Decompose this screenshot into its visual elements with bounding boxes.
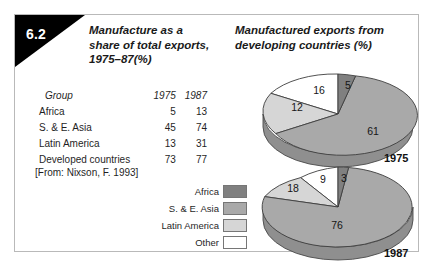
table-cell-1975: 5 <box>145 103 176 119</box>
figure-card: 6.2 Manufacture as a share of total expo… <box>14 14 419 252</box>
legend-swatch-s-e-asia <box>223 202 247 215</box>
legend-swatch-latin-america <box>223 219 247 232</box>
pie-1975-label-s-e-asia: 61 <box>367 125 379 137</box>
legend-label: S. & E. Asia <box>169 203 219 214</box>
pie-1975-label-africa: 5 <box>345 79 351 91</box>
source-citation: [From: Nixson, F. 1993] <box>35 167 138 178</box>
pie-1987-label-other: 9 <box>320 173 326 185</box>
pie-1987-label-s-e-asia: 76 <box>331 219 343 231</box>
table-cell-group: Latin America <box>35 135 145 151</box>
legend-label: Africa <box>195 186 219 197</box>
figure-title-line-2: share of total exports, <box>89 38 239 53</box>
chart-title-line-2: developing countries (%) <box>235 38 415 53</box>
pie-chart-1987: 76 18 9 3 1987 <box>253 155 423 267</box>
table-header-row: Group 1975 1987 <box>35 87 207 103</box>
data-table: Group 1975 1987 Africa 5 13 S. & E. Asia… <box>35 87 207 167</box>
pie-chart-1975: 61 12 16 5 1975 <box>253 59 423 169</box>
legend-item-s-e-asia: S. & E. Asia <box>143 200 247 217</box>
table-cell-group: S. & E. Asia <box>35 119 145 135</box>
table-cell-1987: 13 <box>176 103 207 119</box>
chart-legend: Africa S. & E. Asia Latin America Other <box>143 183 247 251</box>
figure-title-line-3: 1975–87(%) <box>89 52 239 67</box>
table-row: Developed countries 73 77 <box>35 151 207 167</box>
table-cell-1975: 45 <box>145 119 176 135</box>
pie-1975-label-other: 16 <box>313 84 325 96</box>
table-cell-1975: 73 <box>145 151 176 167</box>
table-row: S. & E. Asia 45 74 <box>35 119 207 135</box>
legend-item-other: Other <box>143 234 247 251</box>
figure-number-badge: 6.2 <box>15 15 85 67</box>
pie-1975-label-latin-america: 12 <box>291 101 303 113</box>
legend-label: Latin America <box>161 220 219 231</box>
legend-item-africa: Africa <box>143 183 247 200</box>
table-row: Latin America 13 31 <box>35 135 207 151</box>
table-header-group: Group <box>35 87 145 103</box>
table-cell-group: Developed countries <box>35 151 145 167</box>
table-row: Africa 5 13 <box>35 103 207 119</box>
legend-swatch-other <box>223 236 247 249</box>
table-header-1987: 1987 <box>176 87 207 103</box>
figure-title: Manufacture as a share of total exports,… <box>89 23 239 67</box>
legend-label: Other <box>195 237 219 248</box>
figure-title-line-1: Manufacture as a <box>89 23 239 38</box>
figure-number: 6.2 <box>26 26 46 42</box>
legend-swatch-africa <box>223 185 247 198</box>
pie-1987-label-latin-america: 18 <box>287 182 299 194</box>
table-header-1975: 1975 <box>145 87 176 103</box>
chart-title: Manufactured exports from developing cou… <box>235 23 415 52</box>
table-cell-1987: 77 <box>176 151 207 167</box>
chart-title-line-1: Manufactured exports from <box>235 23 415 38</box>
table-cell-1987: 74 <box>176 119 207 135</box>
legend-item-latin-america: Latin America <box>143 217 247 234</box>
pie-1987-label-africa: 3 <box>341 172 347 184</box>
table-cell-1987: 31 <box>176 135 207 151</box>
pie-1987-year-label: 1987 <box>384 247 408 259</box>
table-cell-group: Africa <box>35 103 145 119</box>
table-cell-1975: 13 <box>145 135 176 151</box>
